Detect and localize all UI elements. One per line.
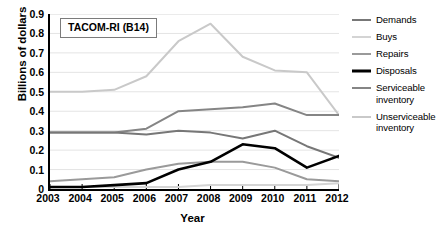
legend-item[interactable]: Repairs — [352, 48, 438, 60]
y-tick-label: 0.6 — [8, 66, 44, 78]
legend-item[interactable]: Disposals — [352, 65, 438, 77]
series-line — [50, 144, 339, 187]
y-tick-label: 0.3 — [8, 125, 44, 137]
legend-item-label: Demands — [376, 14, 416, 26]
plot-title-box: TACOM-RI (B14) — [60, 18, 157, 38]
y-tick-label: 0.2 — [8, 144, 44, 156]
y-tick-label: 0.5 — [8, 86, 44, 98]
legend-line-swatch — [352, 32, 371, 42]
legend-item-label: Buys — [376, 31, 397, 43]
series-line — [50, 131, 339, 158]
legend-line-swatch — [352, 15, 371, 25]
chart-legend: DemandsBuysRepairsDisposalsServiceable i… — [352, 14, 438, 139]
x-tick-label: 2012 — [314, 192, 360, 204]
legend-item[interactable]: Unserviceable inventory — [352, 111, 438, 134]
legend-line-swatch — [352, 83, 371, 93]
legend-item[interactable]: Serviceable inventory — [352, 82, 438, 105]
y-tick-label: 0.8 — [8, 27, 44, 39]
legend-item-label: Serviceable inventory — [376, 82, 438, 105]
y-tick-label: 0.7 — [8, 47, 44, 59]
series-line — [50, 103, 339, 132]
series-lines — [50, 14, 339, 189]
y-axis-tick-labels: 00.10.20.30.40.50.60.70.80.9 — [8, 14, 44, 189]
legend-line-swatch — [352, 66, 371, 76]
y-tick-label: 0.1 — [8, 164, 44, 176]
y-tick-label: 0.9 — [8, 8, 44, 20]
plot-area: TACOM-RI (B14) — [48, 14, 339, 191]
legend-line-swatch — [352, 112, 371, 122]
legend-item-label: Unserviceable inventory — [376, 111, 438, 134]
legend-item-label: Disposals — [376, 65, 417, 77]
legend-item[interactable]: Demands — [352, 14, 438, 26]
x-axis-title: Year — [48, 212, 337, 224]
legend-item[interactable]: Buys — [352, 31, 438, 43]
chart-figure: Billions of dollars 00.10.20.30.40.50.60… — [0, 0, 439, 237]
y-tick-label: 0.4 — [8, 105, 44, 117]
legend-item-label: Repairs — [376, 48, 408, 60]
x-axis-tick-labels: 2003200420052006200720082009201020112012 — [48, 192, 337, 208]
legend-line-swatch — [352, 49, 371, 59]
